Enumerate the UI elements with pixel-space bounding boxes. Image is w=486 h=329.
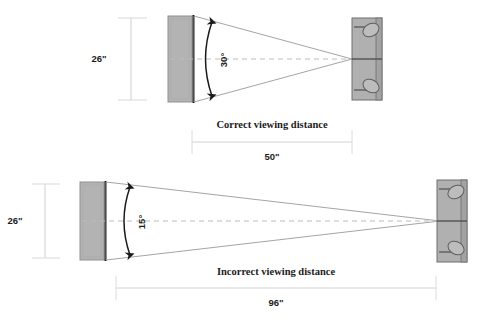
angle-label-incorrect: 15°	[136, 215, 147, 230]
seats-incorrect	[437, 180, 467, 262]
height-dimension-correct: 26"	[91, 18, 147, 100]
caption-correct: Correct viewing distance	[216, 119, 328, 130]
distance-dimension-correct: Correct viewing distance 50"	[192, 119, 352, 162]
distance-dimension-incorrect: Incorrect viewing distance 96"	[116, 266, 436, 308]
distance-label-incorrect: 96"	[268, 297, 283, 308]
caption-incorrect: Incorrect viewing distance	[217, 266, 336, 277]
seats-correct	[352, 18, 382, 100]
diagram-canvas: 26" 30°	[0, 0, 486, 329]
panel-correct: 26" 30°	[91, 15, 382, 162]
height-dimension-incorrect: 26"	[7, 184, 60, 258]
distance-label-correct: 50"	[264, 151, 279, 162]
panel-incorrect: 26" 15°	[7, 180, 467, 308]
viewing-distance-diagram: 26" 30°	[0, 0, 486, 329]
angle-label-correct: 30°	[218, 53, 229, 68]
height-label-incorrect: 26"	[7, 215, 22, 226]
height-label-correct: 26"	[91, 53, 106, 64]
